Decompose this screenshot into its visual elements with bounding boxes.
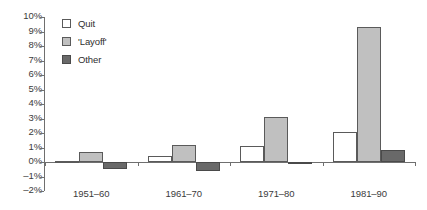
legend-item: Quit <box>62 14 107 32</box>
y-axis-tick-mark <box>40 46 44 47</box>
y-axis-tick-label: 10% <box>23 10 42 21</box>
chart-legend: Quit'Layoff'Other <box>62 14 107 68</box>
legend-swatch-layoff <box>62 37 71 46</box>
bar-quit <box>55 161 79 163</box>
bar-other <box>288 162 312 164</box>
bar-quit <box>240 146 264 162</box>
y-axis-tick-label: –1% <box>23 170 42 181</box>
bar-other <box>381 150 405 162</box>
y-axis-tick-label: 9% <box>28 25 42 36</box>
legend-label: Quit <box>78 18 95 29</box>
bar-quit <box>148 156 172 162</box>
y-axis-tick-mark <box>40 133 44 134</box>
y-axis-tick-mark <box>40 61 44 62</box>
y-axis-tick-mark <box>40 177 44 178</box>
legend-label: 'Layoff' <box>78 36 107 47</box>
y-axis-tick-label: 2% <box>28 126 42 137</box>
y-axis-tick-label: –2% <box>23 184 42 195</box>
bar-layoff <box>264 117 288 162</box>
x-axis-category-label: 1951–60 <box>45 188 138 199</box>
legend-swatch-other <box>62 55 71 64</box>
x-axis-tick-mark <box>415 162 416 166</box>
y-axis-tick-label: 6% <box>28 68 42 79</box>
bar-other <box>196 162 220 171</box>
y-axis-tick-mark <box>40 191 44 192</box>
y-axis-tick-mark <box>40 104 44 105</box>
bar-layoff <box>172 145 196 162</box>
bar-other <box>103 162 127 169</box>
y-axis-tick-mark <box>40 75 44 76</box>
x-axis-tick-mark <box>138 162 139 166</box>
y-axis-tick-label: 1% <box>28 141 42 152</box>
x-axis-category-label: 1971–80 <box>230 188 323 199</box>
y-axis-tick-label: 8% <box>28 39 42 50</box>
y-axis-tick-label: 3% <box>28 112 42 123</box>
y-axis-tick-label: 7% <box>28 54 42 65</box>
x-axis-category-label: 1961–70 <box>138 188 231 199</box>
x-axis-category-label: 1981–90 <box>323 188 416 199</box>
y-axis-tick-label: 5% <box>28 83 42 94</box>
x-axis-tick-mark <box>323 162 324 166</box>
y-axis-tick-label: 0% <box>28 155 42 166</box>
y-axis-tick-mark <box>40 162 44 163</box>
bar-layoff <box>357 27 381 162</box>
y-axis-tick-label: 4% <box>28 97 42 108</box>
y-axis-tick-mark <box>40 90 44 91</box>
bar-layoff <box>79 152 103 162</box>
y-axis-tick-mark <box>40 17 44 18</box>
legend-item: Other <box>62 50 107 68</box>
legend-label: Other <box>78 54 101 65</box>
y-axis-tick-mark <box>40 148 44 149</box>
x-axis-tick-mark <box>230 162 231 166</box>
legend-swatch-quit <box>62 19 71 28</box>
bar-quit <box>333 132 357 162</box>
x-axis-tick-mark <box>45 162 46 166</box>
bar-chart: 10%9%8%7%6%5%4%3%2%1%0%–1%–2% 1951–60196… <box>0 0 427 210</box>
legend-item: 'Layoff' <box>62 32 107 50</box>
y-axis-tick-mark <box>40 119 44 120</box>
y-axis-tick-mark <box>40 32 44 33</box>
